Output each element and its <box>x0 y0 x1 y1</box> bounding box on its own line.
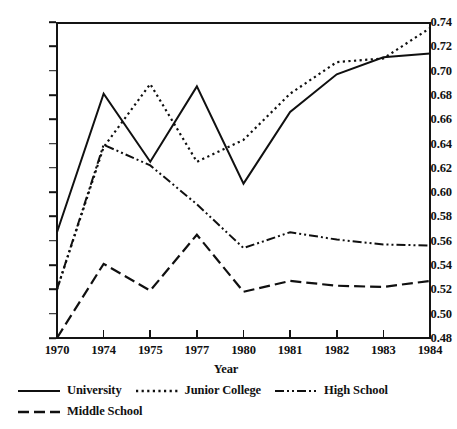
legend-label: Middle School <box>67 405 142 418</box>
series-line-high-school <box>57 145 430 290</box>
chart-legend: UniversityJunior CollegeHigh SchoolMiddl… <box>18 380 448 422</box>
legend-label: University <box>67 384 122 397</box>
legend-row: UniversityJunior CollegeHigh School <box>18 380 448 401</box>
legend-swatch-solid <box>18 385 60 397</box>
legend-label: Junior College <box>185 384 262 397</box>
series-line-junior-college <box>57 28 430 289</box>
series-line-middle-school <box>57 235 430 338</box>
legend-swatch-dotted <box>136 385 178 397</box>
legend-item-middle-school[interactable]: Middle School <box>18 405 142 418</box>
legend-label: High School <box>324 384 388 397</box>
legend-row: Middle School <box>18 401 448 422</box>
legend-item-junior-college[interactable]: Junior College <box>136 384 262 397</box>
legend-item-university[interactable]: University <box>18 384 122 397</box>
legend-swatch-long-dash <box>18 406 60 418</box>
x-axis-title: Year <box>0 362 452 377</box>
legend-item-high-school[interactable]: High School <box>275 384 388 397</box>
series-line-university <box>57 54 430 233</box>
legend-swatch-dash-dot-dot <box>275 385 317 397</box>
